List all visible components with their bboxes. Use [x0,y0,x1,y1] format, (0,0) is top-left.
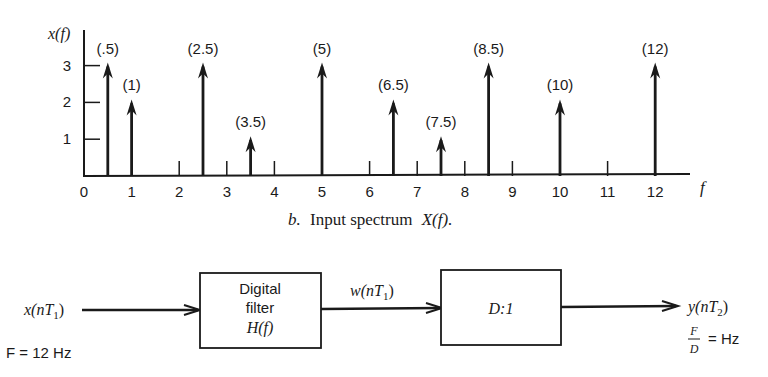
x-tick-label: 0 [80,183,88,200]
caption-prefix: b. [288,210,301,229]
output-rate-numerator: F [689,324,698,338]
x-tick-label: 8 [461,183,469,200]
x-tick-label: 4 [270,183,278,200]
spectrum-impulse: (5) [313,40,331,176]
spectrum-impulse: (2.5) [188,40,219,176]
decimator-label: D:1 [488,300,514,317]
block-diagram: x(nT1) F = 12 Hz Digital filter H(f) w(n… [6,270,739,361]
y-tick-label: 2 [63,93,71,110]
x-tick-label: 7 [413,183,421,200]
spectrum-impulse: (.5) [97,40,120,176]
output-rate-denominator: D [689,342,699,356]
spectrum-impulse: (12) [642,40,669,176]
y-tick-label: 1 [63,130,71,147]
caption-text: Input spectrum [310,210,412,229]
spectrum-impulse: (3.5) [235,113,266,176]
y-axis-label: x(f) [47,25,70,43]
x-tick-label: 9 [508,183,516,200]
impulse-label: (1) [122,76,140,93]
x-tick-label: 6 [365,183,373,200]
spectrum-impulse: (8.5) [473,40,504,176]
axis-labels: 0123456789101112123 [63,57,664,200]
spectrum-impulse: (6.5) [378,76,409,176]
output-arrow-line [561,306,676,307]
impulse-label: (8.5) [473,40,504,57]
chart-axes [84,30,690,177]
spectrum-stems: (.5)(1)(2.5)(3.5)(5)(6.5)(7.5)(8.5)(10)(… [97,40,669,176]
filter-label-line3: H(f) [246,319,274,337]
x-tick-label: 12 [647,183,664,200]
impulse-label: (7.5) [426,113,457,130]
spectrum-impulse: (1) [122,76,140,176]
output-rate-unit: = Hz [708,330,739,347]
mid-signal-label: w(nT1) [350,282,394,302]
x-tick-label: 3 [223,183,231,200]
axis-ticks [84,66,608,176]
impulse-label: (3.5) [235,113,266,130]
impulse-label: (12) [642,40,669,57]
mid-arrow-line [321,308,440,309]
x-axis [84,174,690,176]
x-axis-label: f [700,178,707,197]
chart-caption: b. Input spectrum X(f). [288,210,452,229]
input-rate-label: F = 12 Hz [6,344,71,361]
y-tick-label: 3 [63,57,71,74]
impulse-label: (6.5) [378,76,409,93]
x-tick-label: 11 [600,183,616,200]
x-tick-label: 2 [175,183,183,200]
input-signal-label: x(nT1) [23,301,64,321]
impulse-label: (.5) [97,40,120,57]
filter-label-line1: Digital [239,280,281,297]
spectrum-impulse: (10) [547,76,574,176]
impulse-label: (10) [547,76,574,93]
input-spectrum-chart: (.5)(1)(2.5)(3.5)(5)(6.5)(7.5)(8.5)(10)(… [0,0,768,377]
spectrum-impulse: (7.5) [426,113,457,176]
x-tick-label: 5 [318,183,326,200]
caption-math: X(f). [421,210,453,229]
impulse-label: (5) [313,40,331,57]
x-tick-label: 10 [552,183,569,200]
filter-label-line2: filter [246,299,274,316]
impulse-label: (2.5) [188,40,219,57]
x-tick-label: 1 [127,183,135,200]
output-signal-label: y(nT2) [686,298,728,318]
